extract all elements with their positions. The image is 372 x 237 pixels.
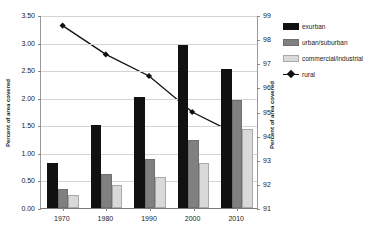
exurban-swatch-icon — [283, 23, 299, 30]
x-axis-tick-label-1990: 1990 — [129, 215, 169, 222]
y-axis-right-tickmark — [257, 16, 260, 17]
bar-exurban-1970 — [47, 163, 58, 208]
y-axis-left-title: Percent of area covered — [5, 73, 11, 153]
bar-exurban-2010 — [221, 69, 232, 208]
y-axis-left-tick-label: 0.00 — [13, 205, 35, 212]
x-axis-tickmark — [150, 208, 151, 211]
y-axis-right-tickmark — [257, 185, 260, 186]
bar-commercial-industrial-2000 — [199, 163, 210, 208]
y-axis-left-tickmark — [38, 126, 41, 127]
x-axis-tick-label-1970: 1970 — [42, 215, 82, 222]
bar-urban-suburban-2000 — [188, 140, 199, 208]
y-axis-right-tick-label: 97 — [263, 60, 285, 67]
rural-marker-1990 — [146, 73, 152, 79]
y-axis-left-tickmark — [38, 154, 41, 155]
rural-marker-2000 — [189, 109, 195, 115]
y-axis-right-tickmark — [257, 137, 260, 138]
rural-marker-1970 — [60, 23, 66, 29]
y-axis-right-tickmark — [257, 64, 260, 65]
x-axis-tick-label-1980: 1980 — [85, 215, 125, 222]
bar-commercial-industrial-1970 — [68, 195, 79, 208]
chart-legend: exurban urban/suburban commercial/indust… — [283, 19, 371, 83]
legend-item-exurban: exurban — [283, 19, 371, 33]
legend-item-commercial-industrial: commercial/industrial — [283, 51, 371, 65]
urban-suburban-swatch-icon — [283, 39, 299, 46]
y-axis-left-tick-label: 0.50 — [13, 177, 35, 184]
y-axis-right-tick-label: 95 — [263, 109, 285, 116]
y-axis-left-tickmark — [38, 16, 41, 17]
y-axis-left-tickmark — [38, 181, 41, 182]
y-axis-right-tick-label: 91 — [263, 205, 285, 212]
bar-commercial-industrial-1990 — [155, 177, 166, 208]
bar-urban-suburban-1970 — [58, 189, 69, 208]
legend-item-urban-suburban: urban/suburban — [283, 35, 371, 49]
legend-label-rural: rural — [302, 71, 315, 78]
y-axis-left-tickmark — [38, 44, 41, 45]
bar-commercial-industrial-2010 — [242, 129, 253, 208]
legend-item-rural: rural — [283, 67, 371, 81]
y-axis-left-tick-label: 1.50 — [13, 122, 35, 129]
rural-marker-1980 — [103, 51, 109, 57]
y-axis-right-tick-label: 99 — [263, 12, 285, 19]
y-axis-left-tick-label: 2.50 — [13, 67, 35, 74]
y-axis-left-tickmark — [38, 209, 41, 210]
rural-line-marker-icon — [283, 70, 299, 79]
bar-commercial-industrial-1980 — [112, 185, 123, 208]
legend-label-exurban: exurban — [302, 23, 326, 30]
x-axis-tickmark — [194, 208, 195, 211]
y-axis-left-tickmark — [38, 99, 41, 100]
legend-label-urban-suburban: urban/suburban — [302, 39, 348, 46]
y-axis-right-tickmark — [257, 113, 260, 114]
y-axis-left-tick-label: 3.50 — [13, 12, 35, 19]
y-axis-right-tick-label: 93 — [263, 157, 285, 164]
y-axis-right-tickmark — [257, 40, 260, 41]
plot-area — [40, 16, 258, 209]
bar-exurban-1980 — [91, 125, 102, 208]
y-axis-right-tick-label: 92 — [263, 181, 285, 188]
y-axis-right-tickmark — [257, 209, 260, 210]
y-axis-right-tick-label: 96 — [263, 84, 285, 91]
bar-exurban-1990 — [134, 97, 145, 208]
y-axis-left-tick-label: 3.00 — [13, 40, 35, 47]
x-axis-tick-label-2000: 2000 — [173, 215, 213, 222]
x-axis-tickmark — [237, 208, 238, 211]
bar-urban-suburban-2010 — [232, 100, 243, 208]
commercial-industrial-swatch-icon — [283, 55, 299, 62]
y-axis-right-tick-label: 94 — [263, 133, 285, 140]
bar-urban-suburban-1990 — [145, 159, 156, 208]
gridline — [41, 16, 257, 17]
bar-exurban-2000 — [178, 45, 189, 208]
x-axis-tick-label-2010: 2010 — [216, 215, 256, 222]
legend-label-commercial-industrial: commercial/industrial — [302, 55, 363, 62]
bar-urban-suburban-1980 — [101, 174, 112, 208]
y-axis-right-tickmark — [257, 88, 260, 89]
y-axis-right-tick-label: 98 — [263, 36, 285, 43]
y-axis-left-tick-label: 2.00 — [13, 95, 35, 102]
rural-line-path — [63, 26, 236, 134]
y-axis-right-tickmark — [257, 161, 260, 162]
x-axis-tickmark — [106, 208, 107, 211]
y-axis-left-tick-label: 1.00 — [13, 150, 35, 157]
x-axis-tickmark — [63, 208, 64, 211]
y-axis-left-tickmark — [38, 71, 41, 72]
gridline — [41, 44, 257, 45]
